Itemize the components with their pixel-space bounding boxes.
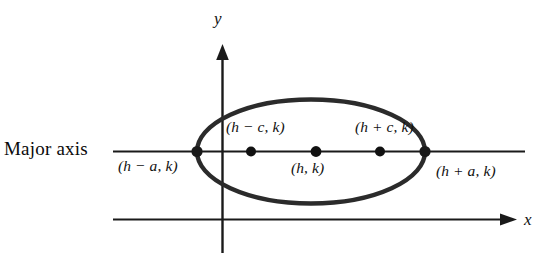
center-label: (h, k) [291,160,324,176]
x-axis-label: x [524,211,532,228]
ellipse-figure: Major axis y x (h − a, k) (h + a, k) (h … [0,0,538,253]
y-axis-arrowhead [216,44,229,60]
left-vertex-label: (h − a, k) [118,158,178,174]
y-axis-label: y [214,10,222,27]
right-focus-point [375,147,385,157]
right-vertex-label: (h + a, k) [436,163,496,179]
x-axis-arrowhead [500,214,517,226]
center-point [311,146,322,157]
left-focus-point [246,147,256,157]
left-focus-label: (h − c, k) [226,119,285,135]
right-focus-label: (h + c, k) [355,119,414,135]
x-axis [113,214,517,226]
major-axis-label: Major axis [4,139,88,158]
right-vertex-point [419,146,430,157]
y-axis [216,44,229,253]
left-vertex-point [191,146,202,157]
